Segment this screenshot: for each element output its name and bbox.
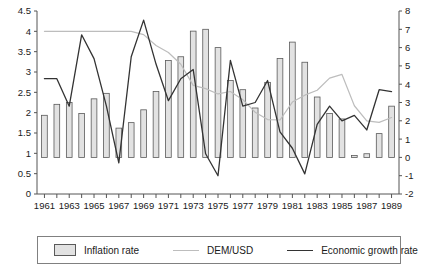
left-axis-tick-label: 0.5 <box>18 168 31 179</box>
right-axis-tick-label: 0 <box>405 152 410 163</box>
bar <box>190 31 196 157</box>
x-axis-tick-label: 1979 <box>257 200 278 211</box>
bar <box>277 59 283 158</box>
x-axis-tick-label: 1971 <box>158 200 179 211</box>
bar <box>252 108 258 157</box>
bar <box>327 113 333 157</box>
x-axis-tick-label: 1985 <box>331 200 352 211</box>
left-axis-tick-labels: 00.511.522.533.544.5 <box>18 5 31 199</box>
legend-label-economic-growth-rate: Economic growth rate <box>321 245 418 256</box>
bar <box>364 154 370 158</box>
x-axis-tick-label: 1975 <box>207 200 228 211</box>
legend-label-dem-usd: DEM/USD <box>207 245 253 256</box>
x-axis-tick-label: 1961 <box>34 200 55 211</box>
right-axis-tick-label: 7 <box>405 24 410 35</box>
left-axis-tick-label: 0 <box>26 188 31 199</box>
x-axis-tick-labels: 1961196319651967196919711973197519771979… <box>34 200 402 211</box>
line-swatch-light-icon <box>173 250 199 251</box>
right-axis-tick-labels: -2-1012345678 <box>405 5 413 199</box>
left-axis-tick-label: 3 <box>26 66 31 77</box>
x-axis-tick-label: 1963 <box>59 200 80 211</box>
bar <box>314 97 320 157</box>
right-axis-tick-label: 8 <box>405 5 410 16</box>
right-axis-tick-label: -2 <box>405 188 413 199</box>
x-axis-tick-label: 1981 <box>282 200 303 211</box>
bar <box>302 62 308 157</box>
x-axis-tick-label: 1965 <box>83 200 104 211</box>
chart-figure: 00.511.522.533.544.5 -2-1012345678 19611… <box>0 0 436 271</box>
bar <box>376 134 382 158</box>
x-axis-tick-label: 1973 <box>183 200 204 211</box>
right-axis-tick-label: 1 <box>405 134 410 145</box>
left-axis-tick-label: 3.5 <box>18 46 31 57</box>
right-axis-tick-label: 2 <box>405 115 410 126</box>
x-axis-tick-label: 1989 <box>381 200 402 211</box>
bar <box>91 99 97 158</box>
left-axis-tick-label: 2.5 <box>18 87 31 98</box>
bar <box>79 113 85 157</box>
plot-area: 00.511.522.533.544.5 -2-1012345678 19611… <box>0 0 436 225</box>
left-axis-tick-label: 1.5 <box>18 127 31 138</box>
bar <box>352 156 358 158</box>
bar <box>153 92 159 158</box>
left-axis-tick-label: 4.5 <box>18 5 31 16</box>
chart-legend: Inflation rate DEM/USD Economic growth r… <box>37 236 401 264</box>
legend-item-dem-usd: DEM/USD <box>173 237 253 263</box>
right-axis-tick-label: 6 <box>405 42 410 53</box>
right-axis-tick-label: 5 <box>405 60 410 71</box>
bar <box>54 104 60 157</box>
bar <box>42 115 48 157</box>
x-axis-tick-label: 1983 <box>307 200 328 211</box>
x-axis-tick-label: 1969 <box>133 200 154 211</box>
bar <box>166 60 172 157</box>
bar <box>339 119 345 157</box>
bar <box>141 110 147 158</box>
bar <box>66 103 72 158</box>
bar <box>290 42 296 157</box>
x-axis-tick-label: 1977 <box>232 200 253 211</box>
legend-item-inflation-rate: Inflation rate <box>54 237 139 263</box>
bar <box>128 123 134 158</box>
x-axis-tick-label: 1987 <box>356 200 377 211</box>
bar <box>104 93 110 157</box>
x-axis-tick-label: 1967 <box>108 200 129 211</box>
right-axis-tick-label: 3 <box>405 97 410 108</box>
left-axis-tick-label: 2 <box>26 107 31 118</box>
bar <box>215 48 221 158</box>
legend-label-inflation-rate: Inflation rate <box>84 245 139 256</box>
legend-item-economic-growth-rate: Economic growth rate <box>287 237 418 263</box>
right-axis-tick-label: 4 <box>405 79 410 90</box>
line-swatch-dark-icon <box>287 250 313 251</box>
bar <box>389 106 395 157</box>
chart-canvas: 00.511.522.533.544.5 -2-1012345678 19611… <box>0 0 436 225</box>
left-axis-tick-label: 1 <box>26 148 31 159</box>
right-axis-tick-label: -1 <box>405 170 413 181</box>
left-axis-tick-label: 4 <box>26 26 31 37</box>
bar <box>178 57 184 158</box>
bar-swatch-icon <box>54 244 76 256</box>
